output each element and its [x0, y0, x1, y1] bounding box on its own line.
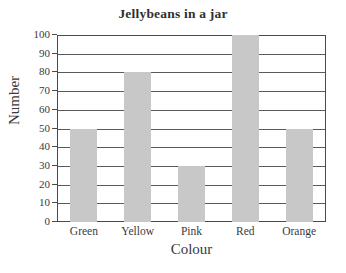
x-axis-tick-label: Yellow — [111, 225, 165, 237]
bar-chart: Jellybeans in a jar Number 1009080706050… — [0, 0, 346, 273]
gridline — [58, 110, 325, 111]
x-axis-tick-label: Red — [218, 225, 272, 237]
bar — [232, 35, 259, 222]
chart-title: Jellybeans in a jar — [0, 6, 346, 22]
x-axis-tick-label: Orange — [272, 225, 326, 237]
x-axis-tick-label: Pink — [165, 225, 219, 237]
y-axis-tick-label: 30 — [2, 160, 50, 171]
gridline — [58, 91, 325, 92]
y-axis-tick-label: 10 — [2, 197, 50, 208]
gridline — [58, 54, 325, 55]
bar — [70, 129, 97, 223]
x-axis-title: Colour — [57, 241, 326, 258]
y-axis-tick-label: 40 — [2, 141, 50, 152]
y-axis-tick-label: 90 — [2, 48, 50, 59]
y-axis-tick-label: 20 — [2, 179, 50, 190]
x-axis-tick-label: Green — [57, 225, 111, 237]
bar — [178, 166, 205, 222]
bar — [286, 129, 313, 223]
y-axis-title: Number — [6, 66, 23, 136]
bar — [124, 72, 151, 222]
gridline — [58, 72, 325, 73]
y-axis-tick-label: 100 — [2, 29, 50, 40]
y-axis-tick-label: 0 — [2, 216, 50, 227]
